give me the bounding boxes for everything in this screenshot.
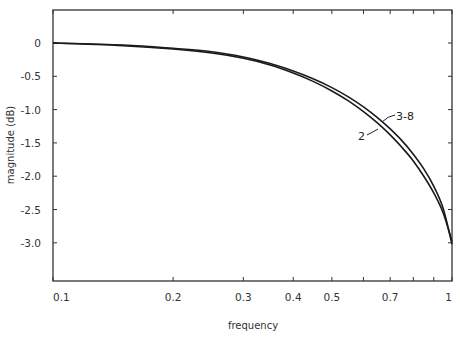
leader-line-2 (367, 129, 378, 135)
series-label-2: 2 (358, 130, 365, 143)
y-tick-label: -0.5 (21, 70, 42, 82)
x-axis-title: frequency (228, 320, 278, 331)
x-tick-label: 0.2 (165, 291, 182, 303)
series-label-3-8: 3-8 (396, 110, 414, 123)
y-tick-label: -2.5 (21, 204, 42, 216)
plot-frame (53, 10, 452, 281)
leader-line-3-8 (382, 115, 395, 122)
series-line-3-8 (53, 43, 452, 244)
y-tick-label: -1.0 (21, 104, 42, 116)
series-lines (53, 43, 452, 244)
chart-canvas: 0-0.5-1.0-1.5-2.0-2.5-3.0 0.10.20.30.40.… (0, 0, 460, 338)
x-tick-label: 1 (445, 291, 452, 303)
x-tick-label: 0.3 (235, 291, 252, 303)
y-tick-label: 0 (34, 37, 41, 49)
series-annotations: 3-82 (358, 110, 414, 143)
y-axis-ticks: 0-0.5-1.0-1.5-2.0-2.5-3.0 (21, 37, 453, 249)
x-tick-label: 0.5 (324, 291, 341, 303)
x-axis-ticks: 0.10.20.30.40.50.71 (53, 10, 452, 303)
x-tick-label: 0.4 (285, 291, 302, 303)
series-line-2 (53, 43, 452, 242)
y-tick-label: -1.5 (21, 137, 42, 149)
x-tick-label: 0.1 (53, 291, 70, 303)
y-tick-label: -3.0 (21, 237, 42, 249)
y-tick-label: -2.0 (21, 170, 42, 182)
y-axis-title: magnitude (dB) (5, 106, 16, 184)
x-tick-label: 0.7 (382, 291, 399, 303)
